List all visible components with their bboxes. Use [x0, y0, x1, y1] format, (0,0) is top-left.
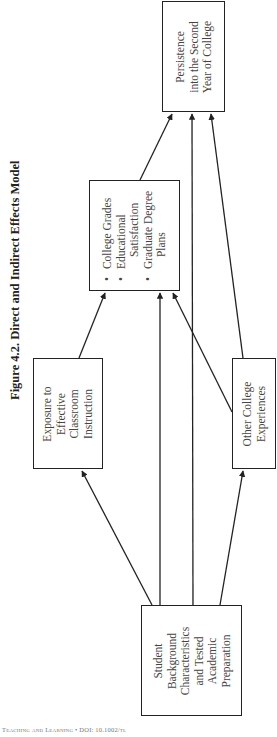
arrow-background-to-persistence — [192, 114, 193, 605]
arrow-background-to-exposure — [82, 471, 152, 605]
background-label: Student Background Characteristics and T… — [151, 626, 232, 694]
label-line: Exposure to — [41, 386, 55, 441]
outcome-item-continuation: Plans — [155, 190, 169, 270]
label-line: Instruction — [82, 386, 96, 441]
label-line: Other College — [241, 381, 255, 446]
label-line: and Tested — [192, 626, 206, 694]
label-line: Effective — [55, 386, 69, 441]
label-line: Student — [151, 626, 165, 694]
outcome-item: College Grades — [101, 190, 115, 270]
other-experiences-node: Other College Experiences — [232, 358, 276, 469]
outcome-item: Educational — [114, 190, 128, 270]
label-line: into the Second — [187, 20, 201, 92]
label-line: Characteristics — [178, 626, 192, 694]
label-line: Preparation — [219, 626, 233, 694]
arrow-exposure-to-outcomes — [79, 293, 105, 358]
label-line: Academic — [205, 626, 219, 694]
arrow-other-to-outcomes — [173, 293, 232, 412]
label-line: Persistence — [173, 20, 187, 92]
label-line: Year of College — [200, 20, 214, 92]
outcomes-list: College Grades Educational Satisfaction … — [101, 190, 169, 280]
persistence-node: Persistence into the Second Year of Coll… — [162, 1, 225, 112]
arrow-other-to-persistence — [211, 114, 243, 358]
label-line: Background — [165, 626, 179, 694]
outcome-item: Graduate Degree — [141, 190, 155, 270]
persistence-label: Persistence into the Second Year of Coll… — [173, 20, 214, 92]
arrow-outcomes-to-persistence — [140, 114, 172, 180]
other-experiences-label: Other College Experiences — [241, 381, 268, 446]
label-line: Classroom — [68, 386, 82, 441]
background-node: Student Background Characteristics and T… — [141, 605, 242, 716]
outcomes-node: College Grades Educational Satisfaction … — [89, 180, 180, 291]
outcome-item-continuation: Satisfaction — [128, 190, 142, 270]
page-footer: Teaching and Learning • DOI: 10.1002/tl — [2, 726, 126, 733]
exposure-label: Exposure to Effective Classroom Instruct… — [41, 386, 95, 441]
exposure-node: Exposure to Effective Classroom Instruct… — [33, 358, 103, 469]
label-line: Experiences — [254, 381, 268, 446]
arrow-background-to-other — [220, 471, 243, 605]
